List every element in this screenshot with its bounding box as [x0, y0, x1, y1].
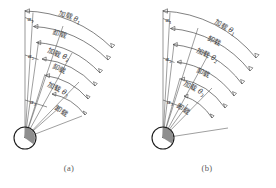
- panel-a-arc-label-3: 加载θ2: [46, 46, 71, 64]
- panel-a-arc-label-6: 卸载: [53, 103, 70, 118]
- panel-a-drawing: α1 α2 α3 加载θ1 卸载 加载θ2 卸载 加载θ3: [0, 0, 138, 165]
- panel-b-arc-label-6: 卸载: [175, 101, 192, 116]
- panel-a-alpha-3: α3: [30, 99, 37, 107]
- panel-a-alpha-2: α2: [28, 53, 34, 61]
- panel-a-arc-label-4: 卸载: [51, 62, 67, 76]
- panel-b-drawing: α1 α2 α3 加载θ1 卸载 加载θ2 卸载 加载θ3: [138, 0, 276, 165]
- panel-b-arc-label-2: 卸载: [206, 34, 223, 48]
- panel-a-arc-label-5: 加载θ3: [46, 80, 71, 99]
- arc-5-end-tick: [86, 95, 90, 99]
- panel-a: α1 α2 α3 加载θ1 卸载 加载θ2 卸载 加载θ3: [0, 0, 138, 188]
- panel-a-caption: (a): [0, 163, 138, 173]
- arc-5-end-tick: [223, 104, 227, 108]
- panel-b-alpha-3: α3: [167, 99, 174, 107]
- panel-b-alpha-2: α2: [166, 56, 172, 64]
- figure-root: α1 α2 α3 加载θ1 卸载 加载θ2 卸载 加载θ3: [0, 0, 276, 188]
- panel-b: α1 α2 α3 加载θ1 卸载 加载θ2 卸载 加载θ3: [138, 0, 276, 188]
- arc-6-end-tick: [210, 114, 214, 118]
- panel-b-alpha-1: α1: [166, 17, 172, 25]
- panel-b-arc-label-4: 卸载: [195, 66, 211, 80]
- ray-1: [25, 13, 33, 139]
- panel-b-arc-label-1: 加载θ1: [213, 17, 238, 37]
- panel-b-arc-label-3: 加载θ2: [195, 46, 220, 65]
- panel-a-arc-label-1: 加载θ1: [57, 8, 82, 25]
- panel-b-caption: (b): [138, 163, 276, 173]
- panel-a-arc-label-2: 卸载: [51, 27, 67, 40]
